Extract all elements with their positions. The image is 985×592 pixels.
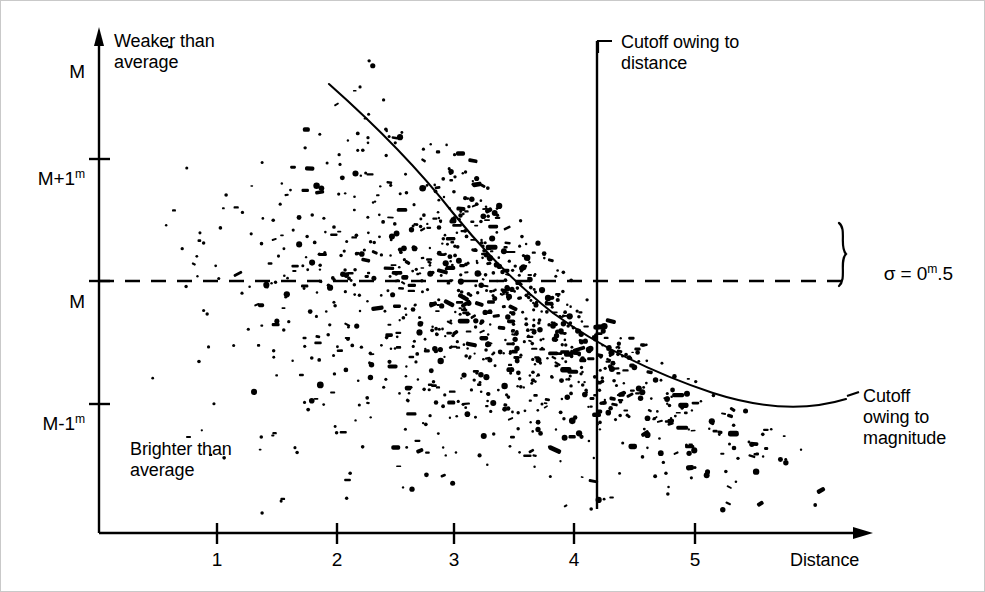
scatter-point xyxy=(681,407,684,410)
scatter-point xyxy=(670,417,672,419)
scatter-point xyxy=(297,215,302,220)
scatter-point xyxy=(413,223,416,226)
scatter-point xyxy=(281,182,283,184)
scatter-point xyxy=(419,272,421,274)
x-axis-title: Distance xyxy=(790,550,859,571)
scatter-point xyxy=(440,473,446,478)
scatter-point xyxy=(485,405,488,407)
scatter-point xyxy=(709,418,715,424)
scatter-point xyxy=(461,230,467,232)
scatter-point xyxy=(331,276,335,280)
scatter-point xyxy=(343,249,346,252)
scatter-point xyxy=(569,305,572,308)
scatter-point xyxy=(450,481,455,486)
scatter-point xyxy=(318,263,322,267)
scatter-point xyxy=(554,275,557,278)
scatter-point xyxy=(662,461,665,464)
scatter-point xyxy=(286,277,289,280)
scatter-point xyxy=(612,379,616,383)
scatter-point xyxy=(425,451,430,453)
scatter-point xyxy=(469,355,472,358)
scatter-point xyxy=(247,328,250,331)
scatter-point xyxy=(356,132,360,136)
scatter-point xyxy=(601,376,604,379)
scatter-point xyxy=(422,388,426,392)
scatter-point xyxy=(464,354,468,358)
scatter-point xyxy=(540,310,543,313)
scatter-point xyxy=(477,273,482,276)
scatter-point xyxy=(290,166,296,169)
scatter-point xyxy=(479,322,482,325)
scatter-point xyxy=(416,448,424,454)
scatter-point xyxy=(488,262,491,265)
scatter-point xyxy=(503,403,507,407)
scatter-point xyxy=(517,297,521,301)
scatter-point xyxy=(512,329,515,332)
scatter-point xyxy=(479,220,483,224)
scatter-point xyxy=(487,358,492,363)
scatter-point xyxy=(576,309,579,312)
scatter-point xyxy=(635,350,640,355)
scatter-point xyxy=(379,185,381,187)
scatter-point xyxy=(270,282,273,285)
scatter-point xyxy=(631,352,634,353)
scatter-point xyxy=(589,405,592,407)
scatter-point xyxy=(535,357,541,363)
scatter-point xyxy=(534,291,537,294)
scatter-point xyxy=(611,403,618,407)
scatter-point xyxy=(251,389,257,395)
scatter-point xyxy=(198,239,202,242)
scatter-point xyxy=(538,431,543,436)
scatter-point xyxy=(491,237,494,240)
scatter-point xyxy=(638,396,643,401)
scatter-point xyxy=(369,352,372,355)
scatter-point xyxy=(459,313,462,316)
scatter-point xyxy=(728,442,731,445)
scatter-point xyxy=(761,433,765,437)
scatter-point xyxy=(483,285,489,288)
scatter-point xyxy=(435,310,440,312)
scatter-point xyxy=(284,296,287,299)
scatter-point xyxy=(639,389,645,395)
scatter-point xyxy=(438,347,443,352)
scatter-point xyxy=(398,266,401,269)
scatter-point xyxy=(544,405,549,409)
scatter-point xyxy=(566,304,569,307)
scatter-point xyxy=(413,340,416,343)
annotation-weaker-than-average: Weaker than average xyxy=(114,31,215,73)
scatter-point xyxy=(393,305,401,308)
scatter-point xyxy=(551,356,556,360)
scatter-point xyxy=(527,258,529,260)
scatter-point xyxy=(504,339,507,342)
scatter-point xyxy=(303,345,306,348)
scatter-point xyxy=(268,262,273,265)
scatter-point xyxy=(250,232,253,235)
scatter-point xyxy=(720,453,724,455)
scatter-point xyxy=(502,352,504,354)
scatter-point xyxy=(419,225,423,229)
scatter-point xyxy=(409,356,415,359)
scatter-point xyxy=(248,285,251,288)
scatter-point xyxy=(355,233,359,237)
scatter-point xyxy=(509,311,512,314)
scatter-point xyxy=(532,252,536,254)
scatter-point xyxy=(461,372,466,377)
scatter-point xyxy=(557,295,559,297)
scatter-point xyxy=(532,324,536,328)
annotation-cutoff-owing-to-distance: Cutoff owing to distance xyxy=(621,32,739,74)
scatter-point xyxy=(324,231,327,234)
scatter-point xyxy=(353,90,357,92)
scatter-point xyxy=(431,326,434,329)
scatter-point xyxy=(453,153,456,156)
scatter-point xyxy=(550,375,553,378)
scatter-point xyxy=(370,416,372,418)
scatter-point xyxy=(353,283,357,287)
scatter-point xyxy=(449,391,456,393)
scatter-point xyxy=(506,251,513,253)
scatter-point xyxy=(328,323,331,326)
scatter-point xyxy=(531,430,534,433)
scatter-point xyxy=(330,234,337,237)
scatter-point xyxy=(470,388,473,391)
scatter-point xyxy=(350,344,354,348)
scatter-point xyxy=(404,428,407,431)
